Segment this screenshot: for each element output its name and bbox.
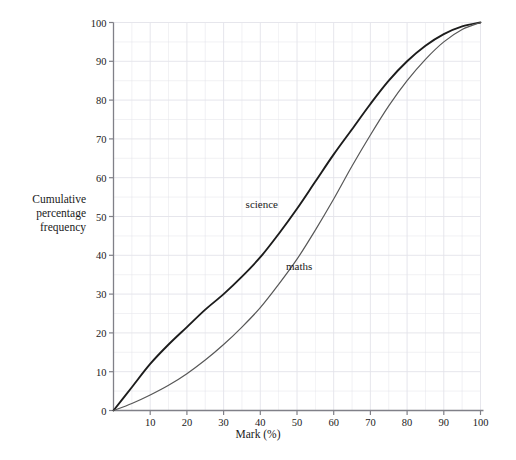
x-tick-label: 90 <box>439 417 450 428</box>
y-tick-label: 100 <box>91 17 107 28</box>
series-annotation-science: science <box>246 198 278 210</box>
y-tick-label: 20 <box>96 327 107 338</box>
y-tick-label: 40 <box>96 250 107 261</box>
axis-ticks <box>109 23 481 416</box>
y-tick-label: 70 <box>96 133 107 144</box>
series-annotation-maths: maths <box>286 260 312 272</box>
y-tick-label: 50 <box>96 211 107 222</box>
x-axis-label: Mark (%) <box>0 428 516 440</box>
y-tick-label: 10 <box>96 366 107 377</box>
x-tick-label: 10 <box>145 417 156 428</box>
x-tick-label: 60 <box>328 417 339 428</box>
x-tick-label: 70 <box>365 417 376 428</box>
x-tick-label: 30 <box>218 417 229 428</box>
x-tick-label: 100 <box>473 417 489 428</box>
cumulative-frequency-chart: Cumulative percentage frequency Mark (%)… <box>0 0 516 460</box>
x-tick-label: 20 <box>182 417 193 428</box>
y-axis-label: Cumulative percentage frequency <box>14 192 86 234</box>
x-tick-label: 80 <box>402 417 413 428</box>
x-tick-label: 50 <box>292 417 303 428</box>
y-tick-label: 30 <box>96 289 107 300</box>
y-tick-label: 60 <box>96 172 107 183</box>
x-tick-label: 40 <box>255 417 266 428</box>
y-tick-label: 80 <box>96 95 107 106</box>
y-tick-label: 90 <box>96 56 107 67</box>
y-tick-label: 0 <box>101 405 106 416</box>
